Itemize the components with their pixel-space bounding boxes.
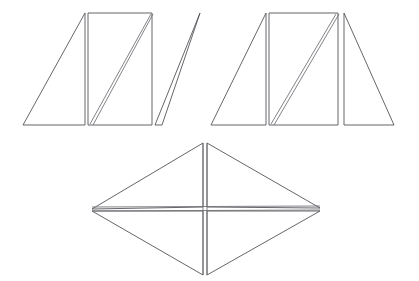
rhombus-group [92, 143, 320, 275]
trapezoid-group [211, 13, 394, 125]
geometry-figure [0, 0, 419, 281]
parallelogram-group [23, 13, 200, 125]
figure-canvas [0, 0, 419, 281]
rhombus-top-left-triangle [92, 143, 203, 209]
parallelogram-right-triangle [155, 13, 200, 125]
parallelogram-left-triangle [23, 13, 85, 125]
trapezoid-left-triangle [211, 13, 266, 125]
trapezoid-right-triangle [344, 13, 394, 125]
rhombus-bottom-left-triangle [92, 211, 203, 275]
rhombus-bottom-right-triangle [207, 211, 320, 275]
rhombus-top-right-triangle [207, 143, 320, 208]
